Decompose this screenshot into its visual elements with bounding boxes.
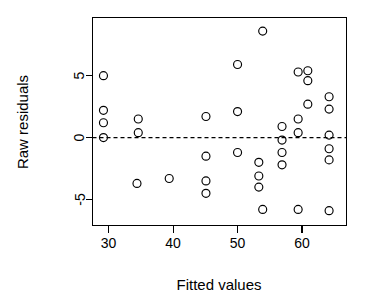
y-tick-label: 5 — [72, 72, 88, 80]
data-point — [165, 174, 173, 182]
data-point — [304, 100, 312, 108]
data-point — [134, 129, 142, 137]
data-point — [325, 207, 333, 215]
data-point — [294, 115, 302, 123]
data-point — [255, 172, 263, 180]
data-point — [234, 61, 242, 69]
x-axis-title: Fitted values — [176, 276, 261, 293]
data-point — [325, 105, 333, 113]
data-point — [234, 148, 242, 156]
data-point — [259, 27, 267, 35]
data-point — [325, 145, 333, 153]
x-tick-label: 40 — [165, 235, 181, 251]
x-tick-label: 30 — [101, 235, 117, 251]
y-tick-label: 0 — [72, 133, 88, 141]
data-point — [202, 113, 210, 121]
data-point — [325, 131, 333, 139]
plot-frame — [93, 18, 347, 226]
data-point — [134, 115, 142, 123]
data-point — [278, 161, 286, 169]
data-point — [99, 106, 107, 114]
data-point — [304, 77, 312, 85]
data-point — [202, 152, 210, 160]
scatter-plot-canvas: 50-5 30405060 Fitted values Raw residual… — [0, 0, 374, 308]
y-tick-label: -5 — [72, 193, 88, 206]
data-point — [99, 119, 107, 127]
data-point — [278, 122, 286, 130]
y-axis: 50-5 — [72, 72, 93, 206]
x-axis: 30405060 — [101, 226, 310, 251]
data-point — [294, 129, 302, 137]
data-point — [259, 205, 267, 213]
x-tick-label: 60 — [294, 235, 310, 251]
residual-plot-figure: 50-5 30405060 Fitted values Raw residual… — [0, 0, 374, 308]
data-point — [234, 108, 242, 116]
data-points-layer — [99, 27, 333, 215]
y-axis-title: Raw residuals — [14, 75, 31, 169]
data-point — [294, 205, 302, 213]
data-point — [325, 156, 333, 164]
data-point — [202, 189, 210, 197]
data-point — [255, 158, 263, 166]
data-point — [294, 68, 302, 76]
data-point — [133, 179, 141, 187]
data-point — [325, 93, 333, 101]
data-point — [255, 183, 263, 191]
data-point — [99, 72, 107, 80]
data-point — [202, 177, 210, 185]
data-point — [304, 67, 312, 75]
x-tick-label: 50 — [230, 235, 246, 251]
data-point — [278, 148, 286, 156]
